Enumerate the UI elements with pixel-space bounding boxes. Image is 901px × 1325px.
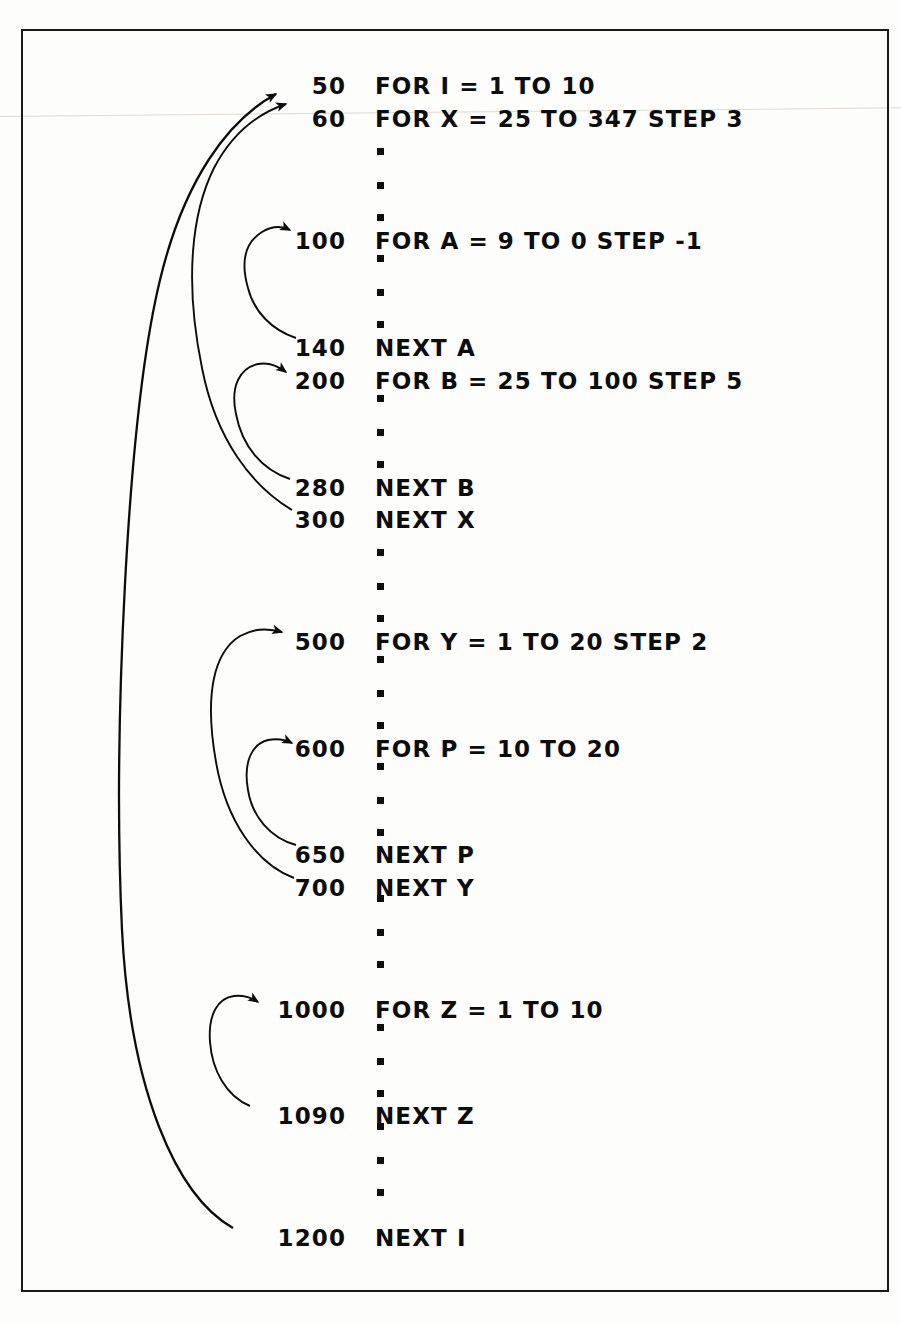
ellipsis-dot [377, 690, 384, 697]
line-statement: NEXT B [375, 473, 476, 503]
ellipsis-dot [377, 797, 384, 804]
line-number: 1200 [236, 1223, 346, 1253]
ellipsis-dot [377, 583, 384, 590]
figure-page: 50FOR I = 1 TO 1060FOR X = 25 TO 347 STE… [0, 0, 901, 1325]
line-number: 300 [236, 505, 346, 535]
ellipsis-dot [377, 1157, 384, 1164]
ellipsis-dot [377, 656, 384, 663]
line-statement: NEXT Y [375, 873, 475, 903]
ellipsis-dot [377, 549, 384, 556]
ellipsis-dot [377, 255, 384, 262]
line-number: 700 [236, 873, 346, 903]
line-statement: FOR Y = 1 TO 20 STEP 2 [375, 627, 708, 657]
ellipsis-dot [377, 961, 384, 968]
ellipsis-dot [377, 429, 384, 436]
line-number: 50 [236, 71, 346, 101]
ellipsis-dot [377, 1024, 384, 1031]
line-number: 650 [236, 840, 346, 870]
line-statement: FOR I = 1 TO 10 [375, 71, 596, 101]
program-listing: 50FOR I = 1 TO 1060FOR X = 25 TO 347 STE… [0, 0, 901, 1325]
line-statement: NEXT Z [375, 1101, 475, 1131]
line-number: 1090 [236, 1101, 346, 1131]
line-statement: NEXT P [375, 840, 475, 870]
line-statement: FOR X = 25 TO 347 STEP 3 [375, 104, 744, 134]
ellipsis-dot [377, 289, 384, 296]
line-statement: NEXT I [375, 1223, 467, 1253]
ellipsis-dot [377, 763, 384, 770]
ellipsis-dot [377, 829, 384, 836]
ellipsis-dot [377, 395, 384, 402]
line-statement: FOR B = 25 TO 100 STEP 5 [375, 366, 743, 396]
line-statement: FOR P = 10 TO 20 [375, 734, 621, 764]
line-number: 200 [236, 366, 346, 396]
line-number: 280 [236, 473, 346, 503]
ellipsis-dot [377, 148, 384, 155]
line-statement: NEXT X [375, 505, 476, 535]
line-statement: FOR A = 9 TO 0 STEP -1 [375, 226, 703, 256]
ellipsis-dot [377, 1058, 384, 1065]
line-number: 140 [236, 333, 346, 363]
ellipsis-dot [377, 1123, 384, 1130]
line-number: 500 [236, 627, 346, 657]
ellipsis-dot [377, 895, 384, 902]
ellipsis-dot [377, 214, 384, 221]
ellipsis-dot [377, 1189, 384, 1196]
ellipsis-dot [377, 1090, 384, 1097]
ellipsis-dot [377, 182, 384, 189]
ellipsis-dot [377, 461, 384, 468]
ellipsis-dot [377, 929, 384, 936]
line-statement: NEXT A [375, 333, 476, 363]
line-number: 100 [236, 226, 346, 256]
line-statement: FOR Z = 1 TO 10 [375, 995, 604, 1025]
ellipsis-dot [377, 615, 384, 622]
line-number: 1000 [236, 995, 346, 1025]
line-number: 60 [236, 104, 346, 134]
ellipsis-dot [377, 722, 384, 729]
ellipsis-dot [377, 321, 384, 328]
line-number: 600 [236, 734, 346, 764]
